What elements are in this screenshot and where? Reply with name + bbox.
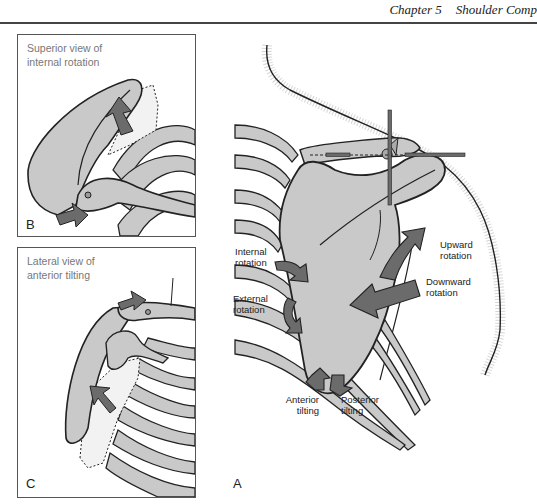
panel-a-letter: A — [233, 476, 242, 491]
header-rule — [0, 22, 537, 24]
panel-c: Lateral view of anterior tilting C — [17, 247, 196, 498]
running-head: Chapter 5Shoulder Comp — [375, 2, 537, 18]
chapter-number: Chapter 5 — [389, 2, 441, 17]
label-downward-rotation: Downward rotation — [426, 276, 471, 298]
chapter-title: Shoulder Comp — [456, 2, 537, 17]
panel-c-illustration — [18, 248, 195, 497]
label-upward-rotation: Upward rotation — [440, 239, 473, 261]
label-anterior-tilting: Anterior tilting — [275, 394, 319, 416]
panel-b: Superior view of internal rotation B — [17, 34, 196, 237]
label-internal-rotation: Internal rotation — [235, 246, 267, 268]
panel-c-letter: C — [26, 476, 35, 491]
label-external-rotation: External rotation — [233, 293, 268, 315]
panel-b-letter: B — [26, 217, 35, 232]
label-posterior-tilting: Posterior tilting — [341, 394, 379, 416]
panel-a-illustration — [220, 30, 537, 504]
panel-b-illustration — [18, 35, 195, 236]
